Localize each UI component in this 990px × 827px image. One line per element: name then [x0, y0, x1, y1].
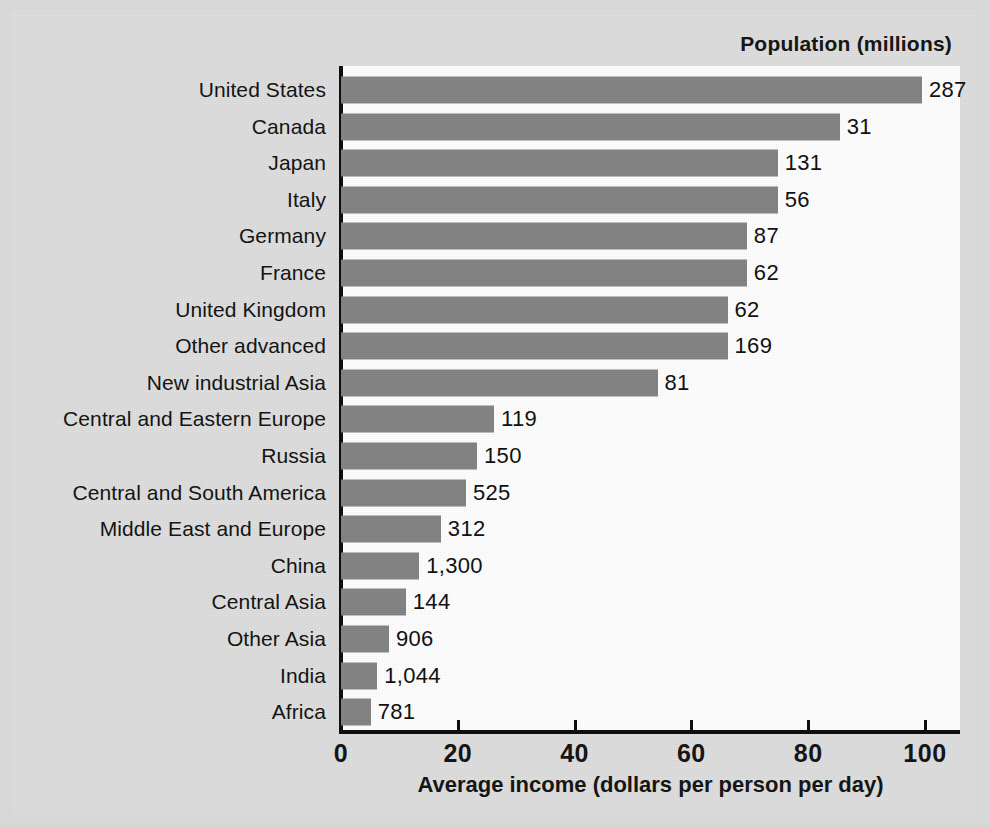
bar-row: China1,300: [14, 548, 976, 584]
bar-value-label: 81: [665, 370, 690, 396]
bar: [341, 296, 728, 323]
bar: [341, 626, 389, 653]
bar-row: Russia150: [14, 438, 976, 474]
bar: [341, 186, 778, 213]
bar-value-label: 169: [735, 333, 773, 359]
category-label: United Kingdom: [175, 298, 326, 322]
category-label: Canada: [252, 115, 326, 139]
bar-row: United States287: [14, 72, 976, 108]
bar-row: India1,044: [14, 658, 976, 694]
bar-value-label: 781: [378, 699, 416, 725]
bar-value-label: 525: [473, 480, 511, 506]
bar-row: Japan131: [14, 145, 976, 181]
category-label: New industrial Asia: [147, 371, 326, 395]
bar-value-label: 31: [847, 114, 872, 140]
bar-value-label: 906: [396, 626, 434, 652]
x-axis-line: [339, 730, 960, 734]
category-label: Africa: [272, 700, 326, 724]
bar-value-label: 56: [785, 187, 810, 213]
bar-value-label: 119: [501, 406, 537, 432]
bar-value-label: 312: [448, 516, 486, 542]
chart-figure: Population (millions) United States287Ca…: [0, 0, 990, 827]
x-axis-tick-label: 80: [768, 739, 848, 768]
bar-value-label: 87: [754, 223, 779, 249]
bar-value-label: 131: [785, 150, 823, 176]
x-axis-title: Average income (dollars per person per d…: [341, 772, 960, 798]
bar: [341, 699, 371, 726]
bar: [341, 516, 441, 543]
bar-row: Canada31: [14, 109, 976, 145]
bar: [341, 662, 377, 689]
bar-row: Central Asia144: [14, 584, 976, 620]
bar-value-label: 1,044: [384, 663, 441, 689]
bar: [341, 443, 477, 470]
x-axis-tick-label: 60: [651, 739, 731, 768]
category-label: Other Asia: [227, 627, 326, 651]
bar: [341, 223, 747, 250]
bar-row: Central and Eastern Europe119: [14, 401, 976, 437]
x-axis-tick-label: 100: [885, 739, 965, 768]
bar-value-label: 62: [754, 260, 779, 286]
bar: [341, 552, 419, 579]
bar-row: Africa781: [14, 694, 976, 730]
category-label: Central and South America: [73, 481, 326, 505]
category-label: Russia: [261, 444, 326, 468]
bar-value-label: 144: [413, 589, 451, 615]
category-label: Central Asia: [212, 590, 326, 614]
bar: [341, 77, 922, 104]
bar-value-label: 287: [929, 77, 967, 103]
figure-frame: Population (millions) United States287Ca…: [14, 10, 976, 810]
bar: [341, 589, 406, 616]
bar-row: Other Asia906: [14, 621, 976, 657]
category-label: India: [280, 664, 326, 688]
category-label: Japan: [268, 151, 326, 175]
bar-row: France62: [14, 255, 976, 291]
bar: [341, 406, 494, 433]
bar-row: Middle East and Europe312: [14, 511, 976, 547]
bar-value-label: 1,300: [426, 553, 483, 579]
category-label: Italy: [287, 188, 326, 212]
x-axis-tick-label: 0: [301, 739, 381, 768]
category-label: Other advanced: [175, 334, 326, 358]
category-label: China: [271, 554, 326, 578]
bar-row: Germany87: [14, 218, 976, 254]
bar: [341, 260, 747, 287]
category-label: Germany: [239, 224, 326, 248]
bar-value-label: 150: [484, 443, 522, 469]
bar: [341, 369, 658, 396]
bar: [341, 150, 778, 177]
bar-row: United Kingdom62: [14, 292, 976, 328]
x-axis-tick-label: 20: [418, 739, 498, 768]
bar-row: Other advanced169: [14, 328, 976, 364]
category-label: France: [260, 261, 326, 285]
bar: [341, 333, 728, 360]
category-label: United States: [199, 78, 326, 102]
bar-row: New industrial Asia81: [14, 365, 976, 401]
population-column-header: Population (millions): [740, 32, 952, 56]
bar-row: Central and South America525: [14, 475, 976, 511]
bar: [341, 113, 840, 140]
category-label: Middle East and Europe: [100, 517, 326, 541]
x-axis-tick-label: 40: [535, 739, 615, 768]
bar: [341, 479, 466, 506]
bar-value-label: 62: [735, 297, 760, 323]
bar-row: Italy56: [14, 182, 976, 218]
category-label: Central and Eastern Europe: [63, 407, 326, 431]
